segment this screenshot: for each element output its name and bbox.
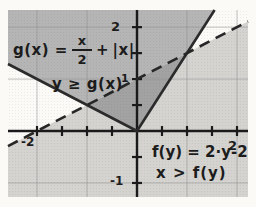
g-equation-plus: + [96, 41, 109, 59]
y-axis-tick-label-neg1: -1 [110, 174, 123, 188]
figure: g(x) = x 2 + |x| y ≥ g(x) f(y) = 2·y-2 x… [0, 0, 256, 207]
g-equation-lhs: g(x) = [13, 41, 68, 59]
g-equation-label: g(x) = x 2 + |x| [13, 34, 135, 66]
x-axis-tick-label-2: 2 [228, 138, 237, 153]
g-inequality-label: y ≥ g(x) [52, 75, 123, 93]
g-equation-abs-x: |x| [113, 41, 135, 59]
f-inequality-label: x > f(y) [156, 164, 227, 182]
x-axis-tick-label-neg2: -2 [21, 135, 34, 149]
fraction-numerator: x [74, 34, 90, 49]
y-axis-tick-label-1: 1 [121, 72, 129, 85]
fraction-x-over-2: x 2 [72, 34, 92, 66]
fraction-denominator: 2 [73, 51, 90, 66]
y-axis-tick-label-2: 2 [111, 19, 120, 34]
